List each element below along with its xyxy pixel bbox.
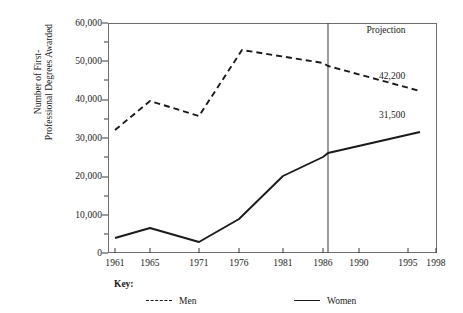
series-line-women xyxy=(115,132,420,242)
legend: Key: Men Women xyxy=(108,279,437,313)
projection-label: Projection xyxy=(338,25,434,35)
legend-item-men: Men xyxy=(146,295,196,306)
men-end-value-label: 42,200 xyxy=(379,71,405,81)
women-end-value-label: 31,500 xyxy=(379,110,405,120)
chart-container: Number of First- Professional Degrees Aw… xyxy=(0,0,463,313)
legend-label-men: Men xyxy=(179,296,196,306)
series-line-men xyxy=(115,50,420,130)
y-axis-major-ticks xyxy=(102,23,108,253)
legend-swatch-dashed-icon xyxy=(146,298,172,304)
x-axis-ticks xyxy=(115,248,436,253)
legend-label-women: Women xyxy=(327,296,356,306)
legend-title: Key: xyxy=(114,279,134,289)
chart-svg-layer xyxy=(0,0,463,313)
legend-swatch-solid-icon xyxy=(294,298,320,304)
legend-item-women: Women xyxy=(294,295,356,306)
